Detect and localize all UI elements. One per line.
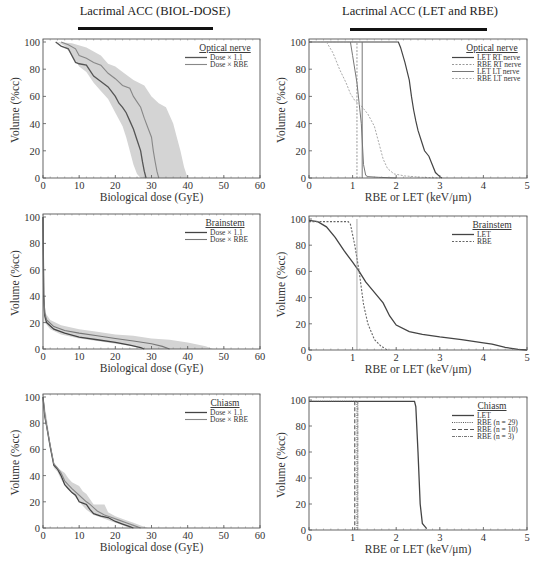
y-axis-label: Volume (%cc) <box>9 250 22 316</box>
x-tick-label: 30 <box>146 180 157 191</box>
x-tick-label: 1 <box>350 180 355 191</box>
y-tick-label: 60 <box>30 444 41 455</box>
x-axis-label: RBE or LET (keV/μm) <box>365 543 472 556</box>
x-tick-label: 50 <box>219 351 230 362</box>
y-tick-label: 20 <box>30 497 41 508</box>
x-tick-label: 5 <box>524 180 529 191</box>
x-tick-label: 3 <box>437 352 442 363</box>
x-tick-label: 30 <box>146 530 157 541</box>
y-axis-label: Volume (%cc) <box>9 77 22 143</box>
x-tick-label: 50 <box>219 180 230 191</box>
chart-brainstem-let: 012345020406080100RBE or LET (keV/μm)Vol… <box>275 214 530 376</box>
x-axis-label: RBE or LET (keV/μm) <box>365 363 472 376</box>
x-tick-label: 0 <box>40 180 45 191</box>
x-tick-label: 40 <box>182 530 193 541</box>
y-tick-label: 60 <box>30 91 41 102</box>
y-tick-label: 20 <box>296 319 307 330</box>
x-tick-label: 20 <box>110 351 121 362</box>
y-tick-label: 40 <box>30 471 41 482</box>
legend-title: Optical nerve <box>199 43 250 53</box>
y-tick-label: 80 <box>30 418 41 429</box>
y-tick-label: 100 <box>24 37 40 48</box>
y-tick-label: 20 <box>30 146 41 157</box>
x-tick-label: 50 <box>219 530 230 541</box>
series-line <box>309 401 357 530</box>
x-tick-label: 10 <box>74 180 85 191</box>
y-tick-label: 60 <box>296 91 307 102</box>
y-tick-label: 20 <box>296 499 307 510</box>
legend-entry: Dose × RBE <box>210 415 248 424</box>
axes-frame <box>309 216 527 350</box>
x-tick-label: 40 <box>182 180 193 191</box>
x-tick-label: 60 <box>255 180 266 191</box>
series-line <box>309 42 440 178</box>
legend-entry: RBE <box>477 237 492 246</box>
x-tick-label: 60 <box>255 530 266 541</box>
y-tick-label: 0 <box>35 523 40 534</box>
x-tick-label: 0 <box>306 352 311 363</box>
y-tick-label: 100 <box>290 214 306 225</box>
y-tick-label: 80 <box>296 64 307 75</box>
legend-title: Brainstem <box>472 220 512 230</box>
legend-title: Chiasm <box>210 398 240 408</box>
legend-entry: Dose × RBE <box>210 60 248 69</box>
x-tick-label: 4 <box>481 352 487 363</box>
x-tick-label: 10 <box>74 530 85 541</box>
x-tick-label: 60 <box>255 351 266 362</box>
y-tick-label: 60 <box>296 447 307 458</box>
y-tick-label: 80 <box>30 64 41 75</box>
series-line <box>309 42 442 178</box>
legend-entry: Dose × RBE <box>210 235 248 244</box>
x-tick-label: 1 <box>350 532 355 543</box>
x-tick-label: 3 <box>437 532 442 543</box>
chart-optical-nerve-let: 012345020406080100RBE or LET (keV/μm)Vol… <box>275 37 530 204</box>
x-tick-label: 0 <box>40 530 45 541</box>
x-axis-label: RBE or LET (keV/μm) <box>365 191 472 204</box>
range-band <box>43 296 213 349</box>
x-axis-label: Biological dose (GyE) <box>100 362 204 375</box>
y-tick-label: 0 <box>35 173 40 184</box>
y-tick-label: 40 <box>30 119 41 130</box>
x-tick-label: 0 <box>306 180 311 191</box>
y-tick-label: 40 <box>30 291 41 302</box>
series-line <box>309 220 527 350</box>
x-tick-label: 2 <box>394 532 399 543</box>
y-tick-label: 40 <box>296 473 307 484</box>
chart-chiasm-dose: 0102030405060020406080100Biological dose… <box>9 392 265 554</box>
legend-title: Brainstem <box>205 218 245 228</box>
y-tick-label: 100 <box>290 37 306 48</box>
y-axis-label: Volume (%cc) <box>275 251 288 317</box>
x-tick-label: 2 <box>394 352 399 363</box>
legend-entry: RBE (n = 3) <box>477 432 514 441</box>
x-tick-label: 4 <box>481 532 487 543</box>
y-axis-label: Volume (%cc) <box>9 429 22 495</box>
chart-optical-nerve-dose: 0102030405060020406080100Biological dose… <box>9 37 265 204</box>
y-tick-label: 100 <box>24 212 40 223</box>
chart-chiasm-let: 012345020406080100RBE or LET (keV/μm)Vol… <box>275 395 530 556</box>
series-line <box>309 42 357 178</box>
x-tick-label: 20 <box>110 180 121 191</box>
y-axis-label: Volume (%cc) <box>275 77 288 143</box>
y-tick-label: 0 <box>301 345 306 356</box>
y-tick-label: 40 <box>296 119 307 130</box>
y-tick-label: 80 <box>296 421 307 432</box>
y-tick-label: 0 <box>35 344 40 355</box>
y-tick-label: 100 <box>290 395 306 406</box>
x-tick-label: 0 <box>306 532 311 543</box>
y-tick-label: 0 <box>301 525 306 536</box>
y-tick-label: 20 <box>296 146 307 157</box>
y-tick-label: 60 <box>30 265 41 276</box>
x-tick-label: 3 <box>437 180 442 191</box>
y-tick-label: 80 <box>30 238 41 249</box>
y-tick-label: 0 <box>301 173 306 184</box>
x-tick-label: 40 <box>182 351 193 362</box>
y-tick-label: 100 <box>24 392 40 403</box>
legend-entry: RBE LT nerve <box>477 74 521 83</box>
x-tick-label: 0 <box>40 351 45 362</box>
range-band <box>43 397 148 528</box>
series-line <box>309 222 387 350</box>
chart-brainstem-dose: 0102030405060020406080100Biological dose… <box>9 212 265 375</box>
charts-canvas: 0102030405060020406080100Biological dose… <box>0 0 539 574</box>
x-tick-label: 20 <box>110 530 121 541</box>
figure: Lacrimal ACC (BIOL-DOSE) Lacrimal ACC (L… <box>0 0 539 574</box>
